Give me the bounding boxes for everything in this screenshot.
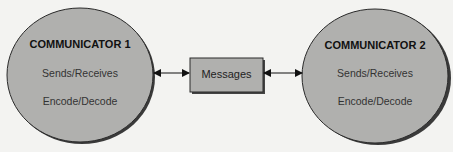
communicator-2-line-2: Encode/Decode	[302, 95, 448, 107]
communicator-1-title: COMMUNICATOR 1	[7, 38, 153, 50]
communicator-2-line-1: Sends/Receives	[302, 67, 448, 79]
messages-label: Messages	[190, 68, 263, 80]
communicator-2-title: COMMUNICATOR 2	[302, 39, 448, 51]
communicator-1-line-2: Encode/Decode	[7, 95, 153, 107]
communicator-1-line-1: Sends/Receives	[7, 67, 153, 79]
